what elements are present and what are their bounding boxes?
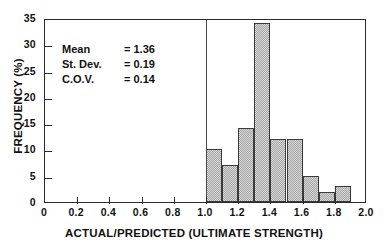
histogram-bar bbox=[254, 23, 270, 202]
statistic-value: = 1.36 bbox=[124, 42, 155, 57]
y-tick bbox=[45, 99, 52, 100]
x-tick bbox=[109, 197, 110, 204]
statistic-row: St. Dev.= 0.19 bbox=[62, 57, 155, 72]
x-tick bbox=[77, 197, 78, 204]
y-tick-label: 25 bbox=[0, 65, 36, 77]
histogram-bar bbox=[335, 186, 351, 202]
statistic-value: = 0.14 bbox=[124, 72, 155, 87]
statistic-name: C.O.V. bbox=[62, 72, 124, 87]
y-tick bbox=[45, 73, 52, 74]
x-tick bbox=[174, 197, 175, 204]
y-tick-label: 30 bbox=[0, 38, 36, 50]
y-tick bbox=[45, 178, 52, 179]
histogram-bar bbox=[303, 176, 319, 202]
histogram-bar bbox=[319, 192, 335, 203]
statistic-row: Mean= 1.36 bbox=[62, 42, 155, 57]
histogram-bar bbox=[206, 149, 222, 202]
x-tick bbox=[142, 197, 143, 204]
statistics-annotation: Mean= 1.36St. Dev.= 0.19C.O.V.= 0.14 bbox=[62, 42, 155, 87]
histogram-bar bbox=[222, 165, 238, 202]
x-axis-title: ACTUAL/PREDICTED (ULTIMATE STRENGTH) bbox=[0, 227, 388, 239]
y-tick-label: 5 bbox=[0, 170, 36, 182]
reference-line-at-1.0 bbox=[206, 20, 207, 202]
histogram-bar bbox=[270, 139, 286, 202]
x-tick bbox=[335, 197, 336, 204]
histogram-bar bbox=[287, 139, 303, 202]
x-tick bbox=[206, 197, 207, 204]
histogram-bar bbox=[238, 128, 254, 202]
y-tick bbox=[45, 46, 52, 47]
y-tick-label: 35 bbox=[0, 12, 36, 24]
statistic-name: St. Dev. bbox=[62, 57, 124, 72]
y-tick-label: 15 bbox=[0, 117, 36, 129]
y-tick-label: 10 bbox=[0, 143, 36, 155]
y-tick bbox=[45, 151, 52, 152]
statistic-value: = 0.19 bbox=[124, 57, 155, 72]
statistic-row: C.O.V.= 0.14 bbox=[62, 72, 155, 87]
x-tick bbox=[303, 197, 304, 204]
x-tick bbox=[270, 197, 271, 204]
x-tick bbox=[238, 197, 239, 204]
histogram-figure: FREQUENCY (%) ACTUAL/PREDICTED (ULTIMATE… bbox=[0, 0, 388, 245]
x-tick-label: 2.0 bbox=[346, 206, 386, 218]
statistic-name: Mean bbox=[62, 42, 124, 57]
y-tick-label: 20 bbox=[0, 91, 36, 103]
y-tick bbox=[45, 125, 52, 126]
